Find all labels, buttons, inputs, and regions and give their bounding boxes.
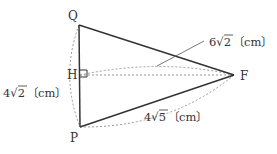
measure-qp: 4√2〔cm〕 [3,86,66,100]
svg-text:4√5〔cm〕: 4√5〔cm〕 [144,110,207,124]
label-H: H [67,68,77,82]
figure-canvas: Q H P F 6√2〔cm〕 4√2〔cm〕 4√5〔cm〕 [0,0,277,154]
leader-line-qf [157,41,204,66]
right-angle-mark [80,70,87,77]
geometry-figure: Q H P F 6√2〔cm〕 4√2〔cm〕 4√5〔cm〕 [0,0,277,154]
label-P: P [70,131,78,145]
label-F: F [240,69,248,83]
measure-qf: 6√2〔cm〕 [209,35,272,49]
segment-qf [79,25,234,75]
segment-qp [79,25,80,127]
measure-pf: 4√5〔cm〕 [144,110,207,124]
svg-text:6√2〔cm〕: 6√2〔cm〕 [209,35,272,49]
svg-text:4√2〔cm〕: 4√2〔cm〕 [3,86,66,100]
label-Q: Q [68,9,78,23]
